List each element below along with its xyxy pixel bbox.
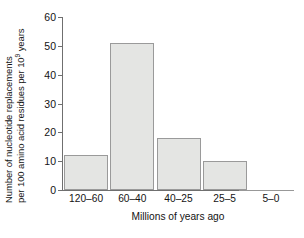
chart-figure: Number of nucleotide replacements per 10… xyxy=(0,0,304,238)
y-axis-tick-label: 50 xyxy=(44,40,56,52)
y-axis-title-line-2-text: per 100 amino acid residues per 10 xyxy=(15,57,26,203)
x-axis-tick-label: 40–25 xyxy=(164,193,192,204)
bar xyxy=(203,161,247,190)
y-axis-tick-mark xyxy=(58,17,62,18)
y-axis-tick-label: 60 xyxy=(44,11,56,23)
y-axis-title-line-2: per 100 amino acid residues per 109 year… xyxy=(15,29,26,203)
y-axis-title-line-2-suffix: years xyxy=(15,29,26,54)
y-axis-tick-label: 0 xyxy=(50,184,56,196)
bar-series xyxy=(63,17,294,190)
y-axis-tick-label: 30 xyxy=(44,98,56,110)
bar xyxy=(157,138,201,190)
x-axis-title: Millions of years ago xyxy=(62,211,294,222)
y-axis-title-exponent: 9 xyxy=(14,54,21,58)
bar xyxy=(110,43,154,190)
y-axis-tick-mark xyxy=(58,161,62,162)
x-axis-tick-label: 120–60 xyxy=(69,193,103,204)
y-axis-tick-mark xyxy=(58,104,62,105)
x-axis-tick-labels: 120–6060–4040–2525–55–0 xyxy=(62,193,294,209)
y-axis-tick-mark xyxy=(58,75,62,76)
y-axis-tick-label: 20 xyxy=(44,126,56,138)
bar xyxy=(64,155,108,190)
y-axis-tick-label: 10 xyxy=(44,155,56,167)
x-axis-tick-label: 25–5 xyxy=(213,193,236,204)
x-axis-tick-label: 5–0 xyxy=(262,193,279,204)
y-axis-tick-mark xyxy=(58,46,62,47)
y-axis-tick-mark xyxy=(58,190,62,191)
plot-area: 0102030405060 xyxy=(62,17,294,190)
y-axis-title-line-1: Number of nucleotide replacements xyxy=(3,56,14,203)
scan-artifact-line xyxy=(239,190,294,191)
x-axis-tick-label: 60–40 xyxy=(118,193,146,204)
y-axis-tick-label: 40 xyxy=(44,69,56,81)
y-axis-tick-mark xyxy=(58,132,62,133)
y-axis-title: Number of nucleotide replacements per 10… xyxy=(0,0,46,200)
